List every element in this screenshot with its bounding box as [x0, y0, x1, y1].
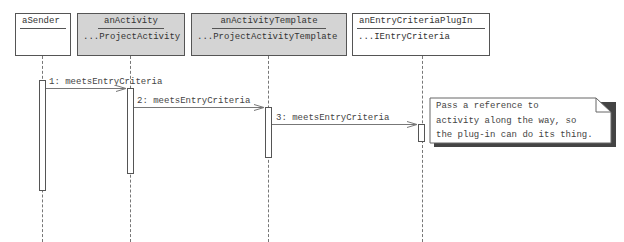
message-label-2: 2: meetsEntryCriteria — [137, 96, 250, 106]
message-label-1: 1: meetsEntryCriteria — [49, 77, 162, 87]
note[interactable]: Pass a reference to activity along the w… — [430, 98, 611, 143]
note-text: Pass a reference to activity along the w… — [436, 99, 593, 143]
message-label-3: 3: meetsEntryCriteria — [276, 113, 389, 123]
